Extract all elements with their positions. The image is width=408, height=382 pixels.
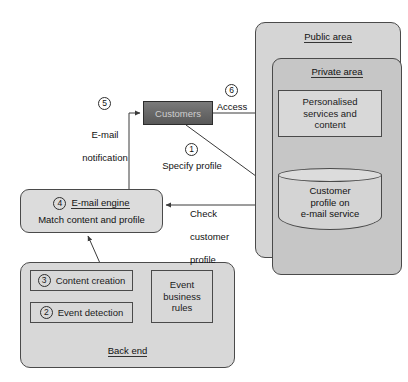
check-profile-line-3: profile [190,254,254,266]
step-5-badge: 5 [98,97,111,110]
check-profile-line-2: customer [190,231,254,243]
email-engine-box[interactable]: 4E-mail engine Match content and profile [20,189,163,233]
email-notification-line-2: notification [62,152,148,164]
email-engine-subtitle: Match content and profile [21,214,162,225]
event-rules-line-3: rules [172,302,193,314]
event-detection-box[interactable]: 2Event detection [30,302,133,323]
specify-profile-label: Specify profile [155,160,229,172]
email-notification-line-1: E-mail [62,129,148,141]
email-engine-title-row: 4E-mail engine [21,197,162,210]
customer-profile-text: Customer profile on e-mail service [278,185,382,220]
customer-profile-line-1: Customer [278,185,382,197]
customer-profile-line-3: e-mail service [278,208,382,220]
customers-label: Customers [155,108,201,119]
event-business-rules-box[interactable]: Event business rules [151,270,213,323]
event-detection-label: Event detection [58,307,124,319]
personalised-line-2: services and [303,108,356,120]
private-area-label: Private area [273,66,401,77]
customer-profile-database[interactable]: Customer profile on e-mail service [278,168,382,230]
step-4-badge: 4 [53,197,66,210]
check-profile-line-1: Check [190,208,254,220]
content-creation-box[interactable]: 3Content creation [30,270,133,291]
cylinder-top-ellipse [278,168,382,182]
customer-profile-line-2: profile on [278,197,382,209]
check-customer-profile-label: Check customer profile [190,196,254,277]
access-label: Access [206,101,258,113]
personalised-services-box[interactable]: Personalised services and content [278,90,382,137]
diagram-canvas: Public area Private area Personalised se… [0,0,408,382]
content-creation-label: Content creation [56,275,126,287]
step-1-badge: 1 [185,143,198,156]
event-rules-line-1: Event [170,279,194,291]
customers-box[interactable]: Customers [143,101,213,125]
step-6-badge: 6 [225,84,238,97]
email-notification-label: E-mail notification [62,117,148,175]
personalised-line-1: Personalised [303,96,358,108]
personalised-line-3: content [314,119,345,131]
event-rules-line-2: business [163,291,201,303]
step-2-badge: 2 [40,306,53,319]
back-end-label: Back end [21,345,234,356]
step-3-badge: 3 [38,274,51,287]
email-engine-title: E-mail engine [71,197,129,209]
public-area-label: Public area [256,31,400,42]
